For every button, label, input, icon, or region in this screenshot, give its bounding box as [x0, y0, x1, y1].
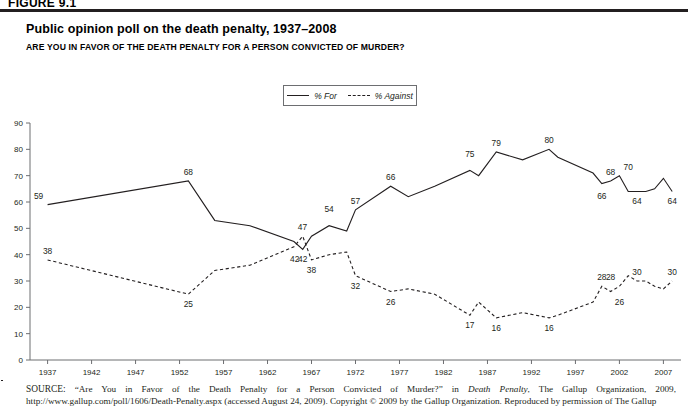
svg-text:2007: 2007 [655, 368, 673, 377]
svg-text:1962: 1962 [259, 368, 277, 377]
svg-text:1942: 1942 [83, 368, 101, 377]
svg-text:1967: 1967 [303, 368, 321, 377]
chart-plot-area: 0102030405060708090193719421947195219571… [0, 12, 688, 380]
svg-text:57: 57 [351, 196, 361, 206]
svg-text:32: 32 [351, 281, 361, 291]
svg-text:1937: 1937 [39, 368, 57, 377]
svg-text:59: 59 [34, 191, 44, 201]
svg-text:16: 16 [544, 323, 554, 333]
svg-text:68: 68 [184, 167, 194, 177]
svg-text:30: 30 [14, 277, 23, 286]
svg-text:50: 50 [14, 224, 23, 233]
svg-text:10: 10 [14, 330, 23, 339]
svg-text:26: 26 [615, 297, 625, 307]
svg-text:79: 79 [492, 138, 502, 148]
figure-panel: Public opinion poll on the death penalty… [0, 12, 688, 380]
svg-text:20: 20 [14, 303, 23, 312]
svg-text:17: 17 [465, 320, 475, 330]
svg-text:60: 60 [14, 198, 23, 207]
line-chart: 0102030405060708090193719421947195219571… [0, 12, 688, 380]
svg-text:26: 26 [386, 297, 396, 307]
svg-text:80: 80 [544, 135, 554, 145]
source-note: SOURCE: “Are You in Favor of the Death P… [26, 383, 676, 408]
svg-text:1972: 1972 [347, 368, 365, 377]
svg-text:64: 64 [668, 196, 678, 206]
svg-text:2002: 2002 [611, 368, 629, 377]
svg-text:80: 80 [14, 145, 23, 154]
svg-text:0: 0 [19, 356, 24, 365]
svg-text:68: 68 [606, 167, 616, 177]
svg-text:40: 40 [14, 251, 23, 260]
svg-text:25: 25 [184, 299, 194, 309]
svg-text:75: 75 [465, 149, 475, 159]
svg-text:54: 54 [324, 204, 334, 214]
svg-text:1997: 1997 [567, 368, 585, 377]
svg-text:1982: 1982 [435, 368, 453, 377]
svg-text:1977: 1977 [391, 368, 409, 377]
svg-text:64: 64 [632, 196, 642, 206]
source-italic-title: Death Penalty [468, 384, 528, 394]
source-kicker: SOURCE: [26, 384, 66, 394]
svg-text:30: 30 [668, 267, 678, 277]
svg-text:1987: 1987 [479, 368, 497, 377]
svg-text:1947: 1947 [127, 368, 145, 377]
svg-text:38: 38 [307, 265, 317, 275]
svg-text:16: 16 [492, 323, 502, 333]
svg-text:30: 30 [632, 267, 642, 277]
svg-text:28: 28 [606, 272, 616, 282]
svg-text:42: 42 [298, 254, 308, 264]
svg-text:70: 70 [14, 172, 23, 181]
svg-text:42: 42 [290, 254, 300, 264]
svg-text:38: 38 [43, 246, 53, 256]
svg-text:66: 66 [597, 191, 607, 201]
svg-text:70: 70 [624, 162, 634, 172]
svg-text:66: 66 [386, 172, 396, 182]
svg-text:90: 90 [14, 119, 23, 128]
svg-text:1957: 1957 [215, 368, 233, 377]
source-text-1: “Are You in Favor of the Death Penalty f… [66, 384, 468, 394]
svg-text:47: 47 [298, 222, 308, 232]
svg-text:1992: 1992 [523, 368, 541, 377]
svg-text:1952: 1952 [171, 368, 189, 377]
